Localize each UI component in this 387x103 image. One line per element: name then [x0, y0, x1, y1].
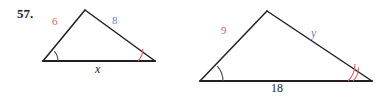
- right-triangle-right-side-label: y: [311, 27, 316, 39]
- left-triangle-group: [43, 10, 155, 61]
- left-triangle-base-label: x: [95, 63, 100, 75]
- right-triangle-right-side: [267, 11, 372, 81]
- left-triangle-left-side-label: 6: [52, 16, 58, 27]
- left-triangle-left-side: [43, 10, 85, 61]
- right-triangle-left-side: [200, 11, 267, 81]
- right-triangle-left-angle-arc: [217, 66, 223, 81]
- right-triangle-left-side-label: 9: [221, 25, 227, 36]
- left-triangle-right-side: [85, 10, 155, 61]
- left-triangle-left-angle-arc: [54, 51, 58, 61]
- triangles-drawing: [0, 0, 387, 103]
- right-triangle-base-label: 18: [271, 82, 283, 94]
- right-triangle-group: [200, 11, 372, 81]
- similar-triangles-figure: 57.: [0, 0, 387, 103]
- left-triangle-right-side-label: 8: [112, 15, 118, 26]
